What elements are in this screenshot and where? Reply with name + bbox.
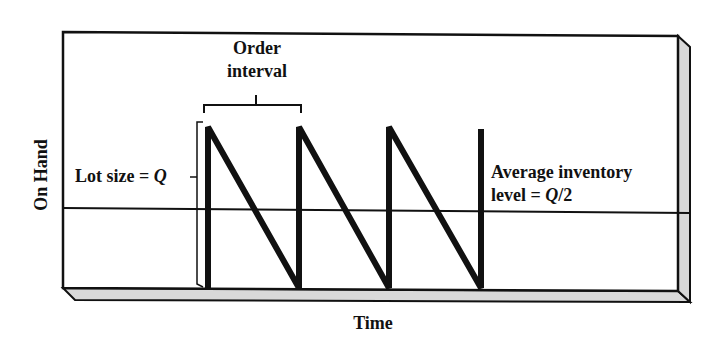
average-inventory-label-2: level = Q/2	[491, 185, 572, 205]
order-interval-label-2: interval	[227, 61, 287, 81]
x-axis-label: Time	[353, 313, 393, 333]
inventory-diagram: Order interval Lot size = Q Average inve…	[0, 0, 716, 342]
order-interval-label-1: Order	[233, 38, 281, 58]
y-axis-label: On Hand	[31, 139, 51, 211]
average-inventory-label-1: Average inventory	[491, 162, 632, 182]
frame-right-side	[678, 36, 690, 302]
lot-size-label: Lot size = Q	[75, 166, 167, 186]
